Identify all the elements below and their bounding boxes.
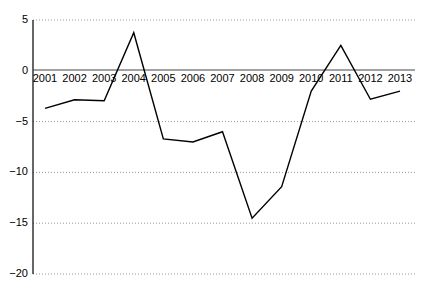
gridline-group <box>33 20 415 274</box>
y-axis-tick-label: 0 <box>0 65 28 76</box>
x-axis-tick-label: 2013 <box>380 73 420 84</box>
line-chart: 50−5−10−15−20 20012002200320042005200620… <box>0 0 426 293</box>
y-axis-tick-label: −10 <box>0 166 28 177</box>
y-axis-tick-label: 5 <box>0 14 28 25</box>
y-axis-tick-label: −15 <box>0 217 28 228</box>
chart-plot-area <box>0 0 426 293</box>
y-axis-tick-label: −5 <box>0 116 28 127</box>
y-axis-tick-label: −20 <box>0 268 28 279</box>
data-series-line <box>45 33 400 218</box>
